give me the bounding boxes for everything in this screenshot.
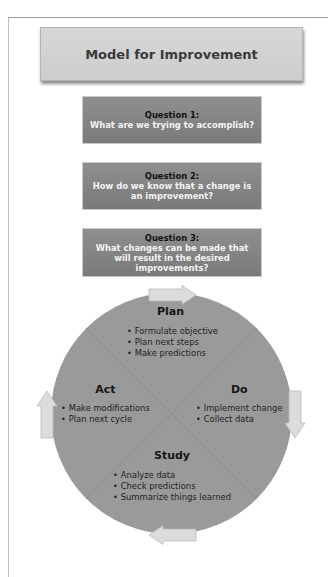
question-3-label: Question 3: xyxy=(145,233,199,243)
quadrant-plan: Plan Formulate objective Plan next steps… xyxy=(127,307,218,359)
study-title: Study xyxy=(113,451,231,461)
quadrant-study: Study Analyze data Check predictions Sum… xyxy=(113,451,231,503)
act-item: Plan next cycle xyxy=(61,414,150,425)
question-1-box: Question 1: What are we trying to accomp… xyxy=(82,96,262,144)
quadrant-do: Do Implement change Collect data xyxy=(196,385,283,425)
study-item: Summarize things learned xyxy=(113,492,231,503)
quadrant-act: Act Make modifications Plan next cycle xyxy=(61,385,150,425)
question-2-text: How do we know that a change is an impro… xyxy=(89,181,255,201)
act-title: Act xyxy=(61,385,150,395)
plan-title: Plan xyxy=(127,307,214,317)
diagram-title: Model for Improvement xyxy=(85,47,258,62)
plan-item: Plan next steps xyxy=(127,337,218,348)
question-2-label: Question 2: xyxy=(145,171,199,181)
question-1-label: Question 1: xyxy=(145,110,199,120)
arrow-up-icon xyxy=(36,390,58,440)
do-item: Collect data xyxy=(196,414,283,425)
do-title: Do xyxy=(196,385,283,395)
arrow-right-icon xyxy=(148,285,198,305)
plan-item: Make predictions xyxy=(127,348,218,359)
header-box: Model for Improvement xyxy=(40,27,303,81)
arrow-left-icon xyxy=(148,525,198,545)
pdsa-cycle-circle: Plan Formulate objective Plan next steps… xyxy=(51,293,292,534)
study-item: Check predictions xyxy=(113,481,231,492)
question-3-box: Question 3: What changes can be made tha… xyxy=(82,228,262,277)
question-1-text: What are we trying to accomplish? xyxy=(90,120,254,130)
study-item: Analyze data xyxy=(113,470,231,481)
act-item: Make modifications xyxy=(61,403,150,414)
plan-item: Formulate objective xyxy=(127,326,218,337)
do-item: Implement change xyxy=(196,403,283,414)
arrow-down-icon xyxy=(284,390,306,440)
question-3-text: What changes can be made that will resul… xyxy=(89,243,255,273)
question-2-box: Question 2: How do we know that a change… xyxy=(82,162,262,210)
